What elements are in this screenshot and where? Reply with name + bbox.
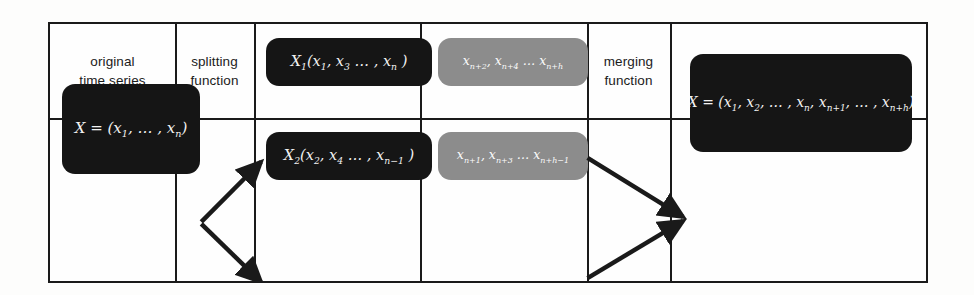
- split-arrow-upper: [201, 162, 261, 222]
- result-node: X = (x1, x2, … , xn, xn+1, … , xn+h): [690, 54, 912, 152]
- prediction-2-node: xn+1, xn+3 … xn+h−1: [438, 132, 588, 180]
- merge-arrow-upper: [588, 158, 684, 217]
- original-series-node: X = (x1, … , xn): [62, 84, 200, 174]
- subseries-2-node: X2(x2, x4 … , xn−1 ): [266, 132, 432, 180]
- result-formula: X = (x1, x2, … , xn, xn+1, … , xn+h): [690, 94, 912, 113]
- original-series-formula: X = (x1, … , xn): [75, 119, 188, 139]
- prediction-1-node: xn+2, xn+4 … xn+h: [438, 38, 588, 86]
- subseries-1-node: X1(x1, x3 … , xn ): [266, 38, 432, 86]
- prediction-2-formula: xn+1, xn+3 … xn+h−1: [457, 147, 569, 165]
- merge-arrow-lower: [588, 221, 684, 278]
- subseries-1-formula: X1(x1, x3 … , xn ): [291, 53, 408, 72]
- subseries-2-formula: X2(x2, x4 … , xn−1 ): [284, 147, 414, 166]
- figure-canvas: original time series splitting function …: [0, 0, 974, 295]
- prediction-1-formula: xn+2, xn+4 … xn+h: [463, 53, 563, 71]
- column-header-merging-function: merging function: [587, 24, 670, 118]
- split-arrow-lower: [201, 224, 261, 281]
- pipeline-table: original time series splitting function …: [48, 22, 928, 283]
